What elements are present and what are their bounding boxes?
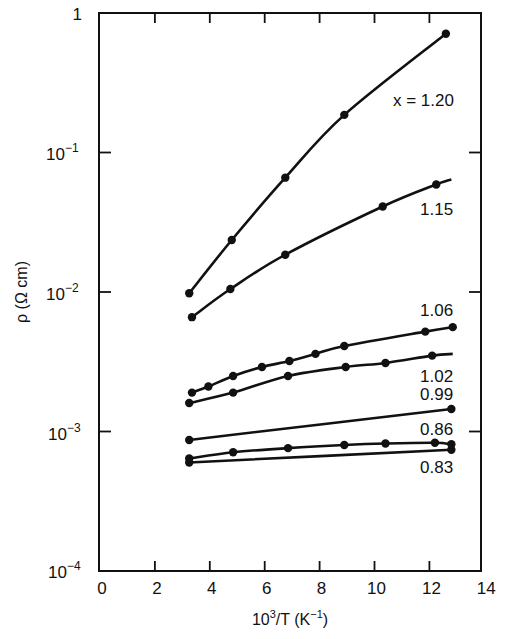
data-point-marker bbox=[447, 446, 455, 454]
data-point-marker bbox=[185, 399, 193, 407]
x-tick-label: 8 bbox=[317, 579, 326, 598]
data-point-marker bbox=[185, 289, 193, 297]
data-point-marker bbox=[442, 30, 450, 38]
data-point-marker bbox=[188, 313, 196, 321]
data-point-marker bbox=[447, 405, 455, 413]
y-tick-1e-1: 10−1 bbox=[46, 141, 79, 164]
series-line bbox=[189, 409, 451, 440]
label-1.15: 1.15 bbox=[420, 200, 453, 219]
data-point-marker bbox=[311, 350, 319, 358]
x-tick-label: 2 bbox=[152, 579, 161, 598]
data-point-marker bbox=[421, 327, 429, 335]
data-point-marker bbox=[340, 441, 348, 449]
data-point-marker bbox=[204, 382, 212, 390]
data-point-marker bbox=[281, 173, 289, 181]
data-point-marker bbox=[188, 388, 196, 396]
data-point-marker bbox=[258, 363, 266, 371]
x-tick-label: 4 bbox=[207, 579, 216, 598]
data-point-marker bbox=[379, 202, 387, 210]
resistivity-chart: 1 10−1 10−2 10−3 10−4 02468101214 103/T … bbox=[0, 0, 509, 639]
data-point-marker bbox=[340, 111, 348, 119]
label-0.86: 0.86 bbox=[420, 420, 453, 439]
y-tick-1e-2: 10−2 bbox=[46, 281, 79, 304]
y-tick-1: 1 bbox=[73, 5, 82, 24]
y-axis-title: ρ (Ω cm) bbox=[13, 261, 30, 323]
label-x-1.20: x = 1.20 bbox=[393, 91, 454, 110]
data-point-marker bbox=[226, 285, 234, 293]
data-point-marker bbox=[285, 357, 293, 365]
x-tick-label: 10 bbox=[367, 579, 386, 598]
x-tick-labels: 02468101214 bbox=[97, 579, 495, 598]
label-0.99: 0.99 bbox=[420, 385, 453, 404]
data-point-marker bbox=[281, 251, 289, 259]
x-tick-label: 12 bbox=[422, 579, 441, 598]
label-1.06: 1.06 bbox=[420, 301, 453, 320]
data-point-marker bbox=[229, 388, 237, 396]
x-tick-label: 0 bbox=[97, 579, 106, 598]
data-point-marker bbox=[185, 436, 193, 444]
data-point-marker bbox=[428, 351, 436, 359]
label-0.83: 0.83 bbox=[420, 458, 453, 477]
data-point-marker bbox=[432, 180, 440, 188]
data-point-marker bbox=[341, 363, 349, 371]
data-point-marker bbox=[228, 236, 236, 244]
x-axis-title: 103/T (K−1) bbox=[252, 608, 328, 628]
x-tick-label: 14 bbox=[477, 579, 496, 598]
label-1.02: 1.02 bbox=[420, 367, 453, 386]
series-line bbox=[192, 327, 453, 392]
data-point-marker bbox=[284, 372, 292, 380]
data-point-marker bbox=[284, 444, 292, 452]
data-point-marker bbox=[340, 342, 348, 350]
x-tick-label: 6 bbox=[262, 579, 271, 598]
data-point-marker bbox=[449, 323, 457, 331]
data-point-marker bbox=[381, 439, 389, 447]
y-tick-1e-4: 10−4 bbox=[48, 559, 81, 582]
data-point-marker bbox=[185, 458, 193, 466]
data-point-marker bbox=[229, 372, 237, 380]
data-point-marker bbox=[381, 359, 389, 367]
data-point-marker bbox=[431, 439, 439, 447]
y-tick-1e-3: 10−3 bbox=[48, 421, 81, 444]
data-point-marker bbox=[229, 448, 237, 456]
series-line bbox=[192, 180, 451, 318]
series-line bbox=[189, 34, 446, 293]
